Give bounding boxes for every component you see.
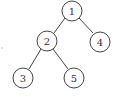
node-label: 3	[20, 73, 26, 84]
node-2: 2	[37, 31, 57, 51]
tree-diagram: 1 2 4 3 5	[0, 0, 115, 98]
edge-2-5	[53, 49, 68, 69]
node-4: 4	[90, 32, 110, 52]
stray-dot	[1, 47, 3, 49]
node-label: 5	[71, 73, 77, 84]
node-label: 1	[69, 6, 75, 17]
node-1: 1	[62, 1, 82, 21]
node-3: 3	[13, 68, 33, 88]
edge-1-2	[54, 18, 65, 33]
node-5: 5	[64, 68, 84, 88]
edge-2-3	[29, 49, 41, 69]
edge-1-4	[79, 18, 93, 33]
node-label: 2	[44, 36, 50, 47]
node-label: 4	[97, 37, 103, 48]
